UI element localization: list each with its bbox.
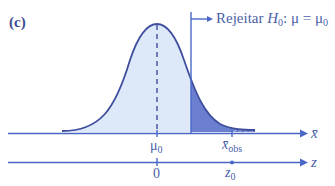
tick-label-zero: 0	[153, 167, 160, 181]
tick-label-z0: z0	[225, 166, 235, 182]
tick-label-mu0: μ0	[150, 139, 163, 155]
xbar-axis-label: x̄	[311, 126, 318, 141]
tick-label-sub: 0	[230, 171, 235, 182]
tick-label-sub: obs	[228, 143, 242, 154]
rejection-region	[191, 80, 255, 132]
annotation-eq: : μ = μ	[283, 10, 323, 26]
tick-label-xobs: x̄obs	[222, 138, 242, 154]
z-axis-arrow-icon	[300, 159, 308, 167]
arrow-head-icon	[207, 16, 213, 22]
tick-label-sub: 0	[158, 144, 163, 155]
annotation-prefix: Rejeitar	[216, 10, 267, 26]
annotation-mu-sub: 0	[323, 17, 328, 28]
tick-label-main: 0	[153, 166, 160, 181]
rejection-annotation: Rejeitar H0: μ = μ0	[216, 11, 328, 28]
tick-label-main: μ	[150, 138, 158, 153]
xbar-axis-arrow-icon	[300, 130, 308, 138]
annotation-h: H	[267, 10, 278, 26]
z-axis-label: z	[311, 155, 317, 170]
tick-z-obs	[230, 161, 234, 165]
panel-label: (c)	[9, 15, 26, 30]
acceptance-region	[62, 24, 191, 132]
